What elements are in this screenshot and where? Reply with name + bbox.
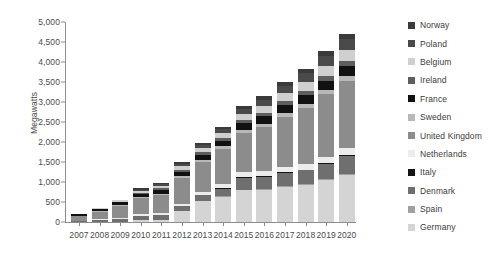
y-axis-tick-label: 2,500 bbox=[14, 117, 60, 127]
x-axis-tick-mark bbox=[223, 222, 224, 226]
bar-segment-belgium bbox=[298, 82, 314, 91]
y-axis-tick-label: 5,000 bbox=[14, 17, 60, 27]
bar-segment-denmark bbox=[236, 178, 252, 190]
bar-segment-germany bbox=[318, 180, 334, 222]
bar-segment-france bbox=[339, 66, 355, 75]
bar-2014 bbox=[215, 127, 231, 222]
y-axis-tick-label: 4,500 bbox=[14, 37, 60, 47]
x-axis-tick-mark bbox=[203, 222, 204, 226]
legend-swatch-icon bbox=[408, 150, 415, 157]
x-axis-tick-mark bbox=[264, 222, 265, 226]
bar-segment-belgium bbox=[277, 93, 293, 101]
bar-segment-united-kingdom bbox=[236, 133, 252, 173]
bar-segment-france bbox=[318, 81, 334, 90]
x-axis-tick-mark bbox=[244, 222, 245, 226]
bar-segment-germany bbox=[277, 187, 293, 222]
bar-2019 bbox=[318, 51, 334, 222]
legend-label: Sweden bbox=[420, 112, 451, 122]
bar-segment-netherlands bbox=[339, 148, 355, 155]
bar-segment-united-kingdom bbox=[277, 117, 293, 167]
bar-segment-united-kingdom bbox=[215, 149, 231, 184]
legend-item-ireland: Ireland bbox=[408, 71, 490, 89]
x-axis-tick-mark bbox=[347, 222, 348, 226]
legend-item-belgium: Belgium bbox=[408, 53, 490, 71]
x-axis-tick-mark bbox=[182, 222, 183, 226]
bar-segment-united-kingdom bbox=[153, 195, 169, 213]
bar-segment-poland bbox=[318, 56, 334, 66]
bar-segment-united-kingdom bbox=[318, 94, 334, 156]
y-axis-tick-label: 500 bbox=[14, 197, 60, 207]
bar-segment-united-kingdom bbox=[256, 127, 272, 171]
legend-label: Norway bbox=[420, 20, 449, 30]
legend-item-france: France bbox=[408, 90, 490, 108]
legend-swatch-icon bbox=[408, 58, 415, 65]
bar-2020 bbox=[339, 34, 355, 222]
bar-segment-germany bbox=[339, 175, 355, 222]
bar-segment-united-kingdom bbox=[92, 212, 108, 220]
x-axis-tick-mark bbox=[100, 222, 101, 226]
legend-label: Belgium bbox=[420, 57, 451, 67]
bar-2017 bbox=[277, 82, 293, 222]
bar-segment-united-kingdom bbox=[112, 206, 128, 218]
bar-segment-poland bbox=[277, 86, 293, 94]
legend-item-norway: Norway bbox=[408, 16, 490, 34]
legend-swatch-icon bbox=[408, 77, 415, 84]
legend-label: Italy bbox=[420, 167, 436, 177]
x-axis-tick-mark bbox=[326, 222, 327, 226]
bar-segment-france bbox=[256, 116, 272, 123]
legend-item-italy: Italy bbox=[408, 163, 490, 181]
legend-item-germany: Germany bbox=[408, 218, 490, 236]
bar-segment-germany bbox=[215, 197, 231, 222]
y-axis-tick-label: 3,500 bbox=[14, 77, 60, 87]
x-axis-tick-mark bbox=[79, 222, 80, 226]
chart-legend: NorwayPolandBelgiumIrelandFranceSwedenUn… bbox=[408, 16, 490, 237]
x-axis-tick-label: 2020 bbox=[332, 230, 362, 240]
legend-label: Germany bbox=[420, 222, 456, 232]
bar-segment-germany bbox=[236, 190, 252, 222]
legend-swatch-icon bbox=[408, 22, 415, 29]
bar-segment-denmark bbox=[215, 189, 231, 196]
x-axis-tick-mark bbox=[141, 222, 142, 226]
bar-segment-belgium bbox=[318, 66, 334, 76]
legend-swatch-icon bbox=[408, 206, 415, 213]
legend-swatch-icon bbox=[408, 132, 415, 139]
legend-label: Denmark bbox=[420, 186, 455, 196]
bar-segment-denmark bbox=[277, 173, 293, 186]
legend-item-spain: Spain bbox=[408, 200, 490, 218]
legend-label: United Kingdom bbox=[420, 131, 482, 141]
bar-2010 bbox=[133, 188, 149, 222]
legend-label: Spain bbox=[420, 204, 442, 214]
bar-segment-united-kingdom bbox=[339, 81, 355, 148]
x-axis-line bbox=[65, 222, 356, 223]
bar-2009 bbox=[112, 200, 128, 222]
bar-2007 bbox=[71, 214, 87, 222]
bar-segment-united-kingdom bbox=[133, 198, 149, 214]
bar-segment-united-kingdom bbox=[298, 108, 314, 164]
bar-segment-united-kingdom bbox=[195, 162, 211, 192]
bar-2015 bbox=[236, 106, 252, 222]
legend-item-netherlands: Netherlands bbox=[408, 145, 490, 163]
bar-segment-denmark bbox=[339, 156, 355, 174]
legend-label: France bbox=[420, 94, 447, 104]
legend-label: Netherlands bbox=[420, 149, 467, 159]
bar-2018 bbox=[298, 69, 314, 222]
legend-item-united-kingdom: United Kingdom bbox=[408, 126, 490, 144]
x-axis-tick-mark bbox=[306, 222, 307, 226]
bar-segment-belgium bbox=[339, 50, 355, 62]
bar-segment-germany bbox=[174, 211, 190, 222]
legend-swatch-icon bbox=[408, 169, 415, 176]
legend-swatch-icon bbox=[408, 40, 415, 47]
bar-2016 bbox=[256, 96, 272, 222]
legend-item-denmark: Denmark bbox=[408, 182, 490, 200]
bar-segment-germany bbox=[195, 201, 211, 222]
legend-label: Ireland bbox=[420, 75, 447, 85]
y-axis-tick-label: 0 bbox=[14, 217, 60, 227]
plot-area bbox=[66, 22, 356, 222]
legend-swatch-icon bbox=[408, 114, 415, 121]
bar-segment-germany bbox=[256, 190, 272, 222]
bar-segment-united-kingdom bbox=[174, 178, 190, 204]
y-axis-tick-label: 1,000 bbox=[14, 177, 60, 187]
x-axis-tick-mark bbox=[285, 222, 286, 226]
stacked-bar-chart: Megawatts 05001,0001,5002,0002,5003,0003… bbox=[0, 0, 490, 255]
y-axis-tick-label: 1,500 bbox=[14, 157, 60, 167]
